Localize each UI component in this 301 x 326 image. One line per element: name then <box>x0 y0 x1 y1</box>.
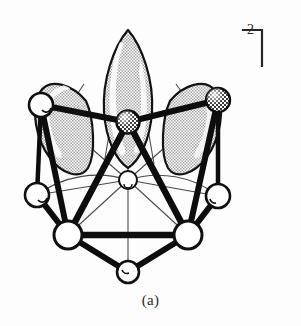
vertex-lower-right-open <box>174 221 202 249</box>
vertex-top-right-shaded <box>206 88 230 112</box>
vertex-apex-center-shaded <box>117 111 140 134</box>
figure-container: 2− (a) <box>0 0 301 326</box>
back-edge-center-midright <box>128 180 218 196</box>
vertex-top-left-open <box>29 93 53 117</box>
vertex-mid-left-open <box>25 183 49 207</box>
charge-label: 2− <box>247 23 262 37</box>
figure-caption: (a) <box>0 292 301 309</box>
vertex-bottom-open <box>117 261 139 283</box>
vertex-center-open <box>119 171 137 189</box>
ligand-lobe-group <box>35 30 221 174</box>
vertex-mid-right-open <box>206 184 230 208</box>
cluster-diagram <box>0 0 301 326</box>
vertex-lower-left-open <box>54 221 82 249</box>
